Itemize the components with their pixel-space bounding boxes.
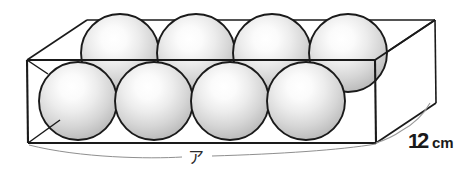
length-leader-right — [212, 144, 376, 156]
depth-leader-curve-lower — [376, 131, 401, 143]
depth-digit-two: 2 — [417, 128, 429, 153]
tick-top-left-inner — [27, 60, 48, 74]
box-edge-top-left-slant — [27, 20, 87, 60]
packed-spheres-diagram: 1 2 cm ア — [0, 0, 469, 170]
length-label-kana: ア — [188, 148, 204, 167]
sphere-front-4 — [267, 62, 345, 140]
depth-unit: cm — [432, 134, 454, 151]
sphere-front-2 — [115, 62, 193, 140]
figure-container: 1 2 cm ア — [0, 0, 469, 170]
box-edge-near-left-vertical — [27, 60, 28, 143]
sphere-front-1 — [39, 62, 117, 140]
sphere-front-3 — [191, 62, 269, 140]
length-leader-left — [29, 145, 182, 158]
depth-dimension-label: 1 2 cm — [408, 128, 454, 153]
box-edge-near-right-vertical — [375, 60, 376, 143]
box-edge-far-right-vertical — [435, 20, 436, 103]
